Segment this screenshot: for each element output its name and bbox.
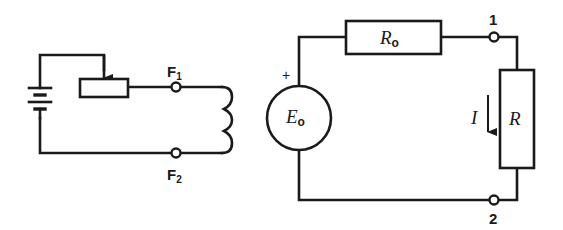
label-terminal-1: 1 (489, 11, 497, 28)
label-f1: F1 (167, 63, 182, 82)
excitation-circuit: F1 F2 (29, 55, 232, 185)
label-f2: F2 (167, 166, 182, 185)
terminal-2 (490, 196, 499, 205)
equivalent-circuit: Ro R Eo + I 1 2 (267, 11, 534, 227)
terminal-f2 (172, 149, 181, 158)
terminal-1 (490, 33, 499, 42)
label-terminal-2: 2 (489, 210, 497, 227)
label-polarity-plus: + (282, 67, 290, 83)
rheostat (80, 79, 128, 97)
wire-r-to-terminal-2 (498, 168, 517, 200)
label-r: R (508, 108, 521, 129)
wire-battery-to-f2 (40, 118, 172, 153)
wire-terminal-1-to-r (498, 37, 517, 70)
label-current: I (470, 107, 479, 128)
wire-terminal-2-to-source (299, 151, 490, 200)
battery-icon (29, 88, 51, 118)
circuit-diagram: F1 F2 Ro R Eo + I 1 2 (0, 0, 563, 230)
wire-source-to-ro (299, 37, 346, 86)
terminal-f1 (172, 83, 181, 92)
field-coil-icon (222, 87, 232, 153)
